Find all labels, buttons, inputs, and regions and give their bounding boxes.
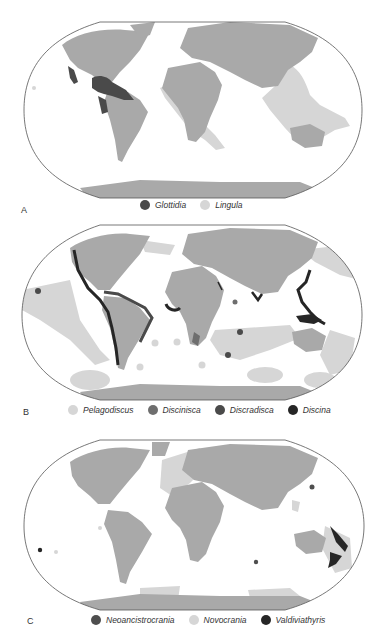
range-discradisca-dot — [225, 352, 231, 358]
world-map-b — [0, 220, 387, 405]
legend-label: Novocrania — [204, 615, 247, 625]
legend-c: Neoancistrocrania Novocrania Valdiviathy… — [91, 615, 339, 625]
panel-c: C Neoancistrocrania Novocrania Valdiviat… — [0, 438, 387, 640]
legend-label: Pelagodiscus — [83, 405, 134, 415]
legend-label: Neoancistrocrania — [106, 615, 175, 625]
legend-swatch — [215, 405, 225, 415]
legend-item-discradisca: Discradisca — [215, 405, 274, 415]
legend-label: Valdiviathyris — [276, 615, 326, 625]
range-pelagodiscus — [247, 367, 283, 383]
world-map-a — [0, 0, 387, 200]
world-map-c — [0, 438, 387, 618]
legend-swatch — [91, 615, 101, 625]
legend-b: Pelagodiscus Discinisca Discradisca Disc… — [68, 405, 345, 415]
legend-swatch — [261, 615, 271, 625]
legend-swatch — [140, 200, 150, 210]
range-discinisca-dot — [35, 288, 41, 294]
range-novocrania-dot — [98, 526, 102, 530]
legend-swatch — [189, 615, 199, 625]
range-lingula-dot — [32, 86, 36, 90]
range-pelagodiscus-dot — [199, 362, 206, 369]
legend-label: Glottidia — [155, 200, 186, 210]
panel-a: A Glottidia Lingula — [0, 0, 387, 220]
legend-item-glottidia: Glottidia — [140, 200, 186, 210]
range-discradisca-dot — [237, 329, 243, 335]
legend-item-novocrania: Novocrania — [189, 615, 247, 625]
legend-item-valdiviathyris: Valdiviathyris — [261, 615, 326, 625]
range-pelagodiscus-dot — [174, 339, 181, 346]
legend-item-pelagodiscus: Pelagodiscus — [68, 405, 134, 415]
range-valdiviathyris-dot — [38, 548, 42, 552]
panel-letter: A — [21, 205, 27, 215]
legend-swatch — [200, 200, 210, 210]
range-pelagodiscus-dot — [152, 340, 159, 347]
legend-a: Glottidia Lingula — [140, 200, 257, 210]
range-pelagodiscus — [70, 370, 110, 390]
range-neoancistrocrania-dot — [254, 560, 258, 564]
legend-label: Lingula — [215, 200, 242, 210]
range-discradisca-dot — [233, 300, 238, 305]
legend-item-lingula: Lingula — [200, 200, 242, 210]
legend-item-discina: Discina — [288, 405, 331, 415]
range-pelagodiscus-dot — [137, 364, 144, 371]
legend-item-neoancistrocrania: Neoancistrocrania — [91, 615, 175, 625]
legend-label: Discinisca — [163, 405, 201, 415]
panel-letter: C — [27, 616, 34, 626]
legend-label: Discradisca — [230, 405, 274, 415]
legend-swatch — [148, 405, 158, 415]
legend-swatch — [68, 405, 78, 415]
legend-swatch — [288, 405, 298, 415]
legend-item-discinisca: Discinisca — [148, 405, 201, 415]
legend-label: Discina — [303, 405, 331, 415]
range-neoancistrocrania-dot — [310, 485, 315, 490]
panel-letter: B — [23, 407, 29, 417]
range-novocrania-dot — [54, 550, 58, 554]
panel-b: B Pelagodiscus Discinisca Discradisca Di… — [0, 220, 387, 420]
